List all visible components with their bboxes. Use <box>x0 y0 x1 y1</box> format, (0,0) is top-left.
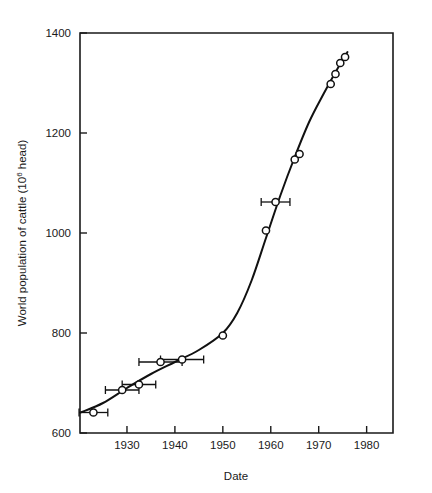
data-point <box>178 356 185 363</box>
x-tick-label: 1930 <box>114 439 140 451</box>
x-axis-ticks <box>127 426 367 433</box>
axis-frame <box>80 33 393 433</box>
x-tick-label: 1980 <box>354 439 380 451</box>
data-point <box>332 70 339 77</box>
plot-area: 600800100012001400 193019401950196019701… <box>0 0 432 493</box>
data-point <box>272 198 279 205</box>
x-axis-title: Date <box>224 470 248 482</box>
x-tick-label: 1960 <box>258 439 284 451</box>
data-point <box>90 409 97 416</box>
x-tick-label: 1940 <box>162 439 188 451</box>
y-title-tail: head) <box>16 140 28 173</box>
data-series-group <box>79 52 349 417</box>
chart-figure: 600800100012001400 193019401950196019701… <box>0 0 432 493</box>
y-axis-ticks <box>80 33 87 433</box>
y-axis-tick-labels: 600800100012001400 <box>45 27 71 439</box>
y-tick-label: 600 <box>52 427 71 439</box>
data-point-markers <box>90 53 349 416</box>
data-point <box>157 358 164 365</box>
x-tick-label: 1970 <box>306 439 332 451</box>
x-tick-label: 1950 <box>210 439 236 451</box>
data-point <box>219 332 226 339</box>
y-tick-label: 1000 <box>45 227 71 239</box>
y-tick-label: 800 <box>52 327 71 339</box>
x-axis-tick-labels: 193019401950196019701980 <box>114 439 379 451</box>
data-point <box>341 53 348 60</box>
data-point <box>119 386 126 393</box>
error-bars <box>79 198 290 417</box>
y-tick-label: 1200 <box>45 127 71 139</box>
y-tick-label: 1400 <box>45 27 71 39</box>
data-point <box>296 150 303 157</box>
axis-box <box>80 33 393 433</box>
data-point <box>327 80 334 87</box>
fitted-curve <box>80 52 347 413</box>
data-point <box>262 227 269 234</box>
y-axis-title: World population of cattle (106 head) <box>15 140 28 327</box>
axis-titles: Date World population of cattle (106 hea… <box>15 140 248 482</box>
y-title-main: World population of cattle (10 <box>16 177 28 326</box>
data-point <box>135 381 142 388</box>
